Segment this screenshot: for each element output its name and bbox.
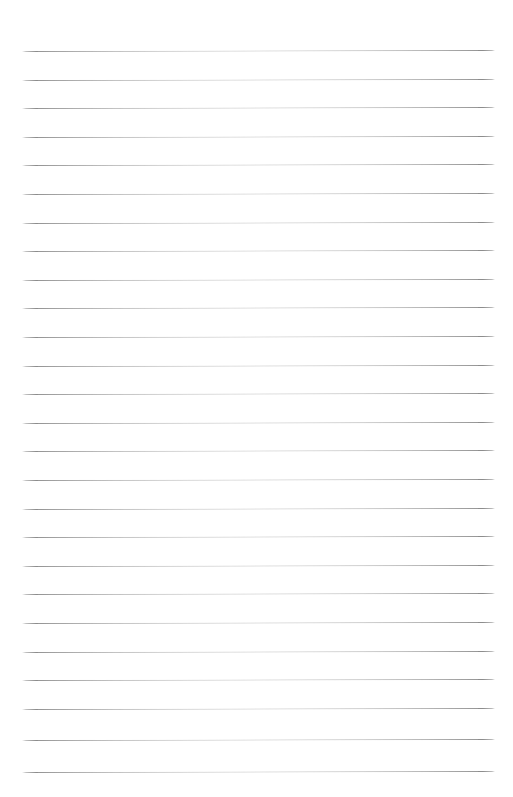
rule-line <box>22 279 495 281</box>
rule-line <box>22 365 495 367</box>
rule-line <box>22 50 495 52</box>
rule-line <box>22 708 495 710</box>
rule-line <box>22 771 495 773</box>
rule-line <box>22 450 495 452</box>
rule-line <box>22 164 495 166</box>
rule-line <box>22 739 495 741</box>
rule-line <box>22 593 495 595</box>
ruled-lines-layer <box>0 0 513 797</box>
rule-line <box>22 222 495 224</box>
rule-line <box>22 565 495 567</box>
rule-line <box>22 651 495 653</box>
rule-line <box>22 193 495 195</box>
rule-line <box>22 307 495 309</box>
rule-line <box>22 136 495 138</box>
rule-line <box>22 622 495 624</box>
rule-line <box>22 336 495 338</box>
scanned-page <box>0 0 513 797</box>
rule-line <box>22 422 495 424</box>
rule-line <box>22 393 495 395</box>
rule-line <box>22 536 495 538</box>
rule-line <box>22 107 495 109</box>
rule-line <box>22 479 495 481</box>
rule-line <box>22 508 495 510</box>
rule-line <box>22 79 495 81</box>
rule-line <box>22 679 495 681</box>
rule-line <box>22 250 495 252</box>
